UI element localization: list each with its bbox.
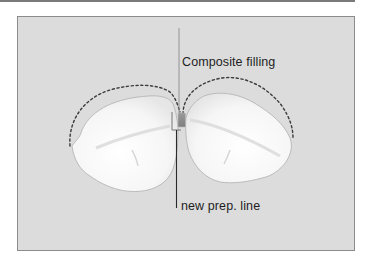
right-tooth (186, 93, 292, 183)
new-prep-line-label: new prep. line (181, 200, 260, 213)
composite-filling (178, 113, 186, 127)
left-tooth (72, 96, 178, 192)
tooth-diagram (0, 0, 368, 260)
composite-filling-label: Composite filling (182, 56, 275, 69)
